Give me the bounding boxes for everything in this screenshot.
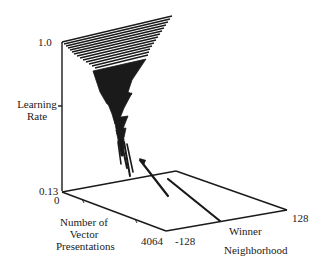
y-tick-end: 128 xyxy=(292,212,309,224)
z-tick-top: 1.0 xyxy=(38,36,52,48)
base-back-edge xyxy=(62,171,176,192)
x-tick-end: 4064 xyxy=(141,235,163,247)
x-axis-title: Number of Vector Presentations xyxy=(56,216,112,252)
striped-fan xyxy=(62,16,172,68)
y-tick-start: -128 xyxy=(175,235,195,247)
dense-cone xyxy=(93,59,146,156)
base-right-edge xyxy=(176,171,287,210)
x-tick-origin: 0 xyxy=(54,194,60,206)
axes-frame xyxy=(58,42,287,231)
y-axis xyxy=(166,210,287,231)
y-mid-label: Winner xyxy=(229,225,262,237)
y-axis-title: Neighborhood xyxy=(224,244,288,256)
z-axis-title: Learning Rate xyxy=(14,98,60,122)
